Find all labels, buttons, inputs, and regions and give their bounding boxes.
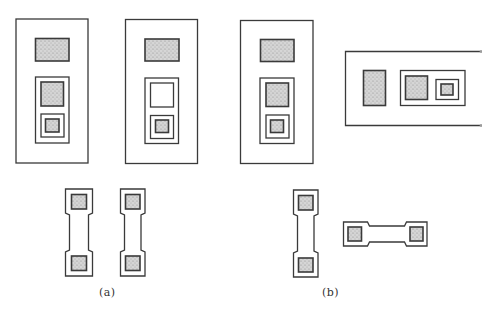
test-pad-a2-top-contact bbox=[126, 195, 141, 210]
cell-a2 bbox=[126, 20, 198, 164]
cell-b2-small-contact bbox=[441, 84, 453, 95]
test-pad-b1-top-contact bbox=[299, 196, 314, 211]
test-pad-b1 bbox=[294, 190, 319, 277]
panel-a-caption: (a) bbox=[99, 286, 116, 299]
layout-diagram bbox=[0, 0, 482, 312]
test-pad-a2-bottom-contact bbox=[126, 256, 141, 271]
cell-b1-mid-contact bbox=[266, 83, 289, 107]
cell-b1-top-contact bbox=[261, 40, 295, 62]
cell-b2 bbox=[346, 52, 482, 126]
cell-a2-open-window bbox=[151, 83, 174, 107]
test-pad-a1-top-contact bbox=[72, 195, 87, 210]
cell-a2-top-contact bbox=[145, 39, 179, 61]
cell-a1-mid-contact bbox=[41, 82, 64, 106]
test-pad-a1 bbox=[66, 189, 93, 276]
test-pad-b2-right-contact bbox=[410, 227, 423, 241]
cell-a2-small-contact bbox=[156, 120, 169, 133]
test-pad-a2 bbox=[121, 189, 146, 276]
cell-a1-top-contact bbox=[36, 39, 70, 62]
test-pad-b2-left-contact bbox=[348, 227, 362, 241]
cell-b2-left-contact bbox=[364, 71, 386, 106]
panel-b-caption: (b) bbox=[322, 286, 339, 299]
cell-a1 bbox=[16, 19, 88, 163]
test-pad-a1-bottom-contact bbox=[72, 256, 87, 271]
test-pad-b1-bottom-contact bbox=[299, 258, 314, 272]
test-pad-b2 bbox=[344, 222, 428, 246]
cell-b1 bbox=[241, 21, 314, 164]
cell-a1-small-contact bbox=[46, 119, 60, 132]
cell-b2-mid-contact bbox=[406, 76, 428, 100]
cell-b1-small-contact bbox=[271, 120, 284, 133]
